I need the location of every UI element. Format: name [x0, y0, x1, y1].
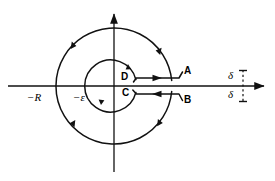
- label-delta-upper: δ: [228, 70, 233, 81]
- lower-cut-segment: [133, 90, 183, 101]
- label-minus-epsilon: −ε: [73, 92, 85, 103]
- contour-diagram-figure: −R −ε A B C D δ δ: [0, 0, 275, 181]
- upper-cut-segment: [134, 72, 183, 82]
- label-minus-R: −R: [27, 92, 41, 103]
- label-point-D: D: [121, 72, 128, 82]
- label-point-B: B: [184, 95, 191, 105]
- label-point-C: C: [122, 88, 129, 98]
- label-delta-lower: δ: [228, 89, 233, 100]
- contour-diagram-canvas: [0, 0, 275, 181]
- inner-arc-arrowhead-bottom-left: [99, 99, 105, 105]
- outer-arc-arrowhead-lower-right: [157, 119, 163, 126]
- label-point-A: A: [184, 66, 191, 76]
